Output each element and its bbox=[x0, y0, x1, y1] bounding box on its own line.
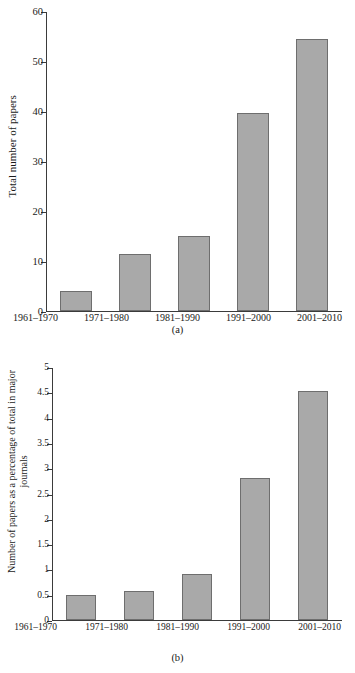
subplot-caption-b: (b) bbox=[0, 652, 355, 663]
plot-area-b: 00.511.522.533.544.55 bbox=[52, 368, 342, 621]
x-category-label: 1981–1990 bbox=[142, 623, 213, 633]
y-tick-label: 30 bbox=[33, 157, 44, 168]
bar-a-1981–1990[interactable] bbox=[178, 236, 210, 311]
y-tick-label: 50 bbox=[33, 57, 44, 68]
y-tick-label: 3 bbox=[44, 464, 49, 474]
bar-slot bbox=[110, 368, 168, 620]
figure-a: 0102030405060 1961–19701971–19801981–199… bbox=[0, 0, 355, 340]
x-category-label: 1991–2000 bbox=[213, 623, 284, 633]
bar-slot bbox=[226, 368, 284, 620]
y-tick-label: 20 bbox=[33, 207, 44, 218]
y-tick-label: 2 bbox=[44, 515, 49, 525]
bar-a-1961–1970[interactable] bbox=[60, 291, 92, 311]
bar-slot bbox=[168, 368, 226, 620]
bar-slot bbox=[46, 12, 105, 311]
x-category-label: 1991–2000 bbox=[213, 313, 284, 323]
bar-slot bbox=[105, 12, 164, 311]
y-tick-label: 2.5 bbox=[37, 490, 49, 500]
y-axis-title-b: Number of papers as a percentage of tota… bbox=[6, 369, 29, 574]
bar-series-a bbox=[46, 12, 342, 311]
bar-b-1961–1970[interactable] bbox=[66, 595, 96, 620]
bar-b-1991–2000[interactable] bbox=[240, 478, 270, 620]
y-tick-label: 60 bbox=[33, 7, 44, 18]
bar-slot bbox=[224, 12, 283, 311]
y-tick-label: 1.5 bbox=[37, 540, 49, 550]
y-tick-label: 4.5 bbox=[37, 389, 49, 399]
y-tick-label: 10 bbox=[33, 257, 44, 268]
y-tick-label: 0.5 bbox=[37, 591, 49, 601]
bar-a-2001–2010[interactable] bbox=[296, 39, 328, 311]
x-category-label: 1971–1980 bbox=[71, 623, 142, 633]
bar-b-2001–2010[interactable] bbox=[298, 391, 328, 620]
y-tick-label: 40 bbox=[33, 107, 44, 118]
x-axis-category-labels-a: 1961–19701971–19801981–19901991–20002001… bbox=[0, 313, 355, 323]
plot-area-a: 0102030405060 bbox=[46, 12, 342, 312]
bar-a-1991–2000[interactable] bbox=[237, 113, 269, 311]
bar-series-b bbox=[52, 368, 342, 620]
y-tick-label: 3.5 bbox=[37, 439, 49, 449]
y-tick-label: 5 bbox=[44, 363, 49, 373]
bar-slot bbox=[284, 368, 342, 620]
x-category-label: 2001–2010 bbox=[284, 623, 355, 633]
x-axis-line-b bbox=[52, 620, 342, 621]
bar-slot bbox=[164, 12, 223, 311]
y-axis-title-a: Total number of papers bbox=[6, 66, 19, 226]
y-tick-label: 4 bbox=[44, 414, 49, 424]
x-category-label: 1981–1990 bbox=[142, 313, 213, 323]
x-category-label: 1971–1980 bbox=[71, 313, 142, 323]
bar-slot bbox=[52, 368, 110, 620]
bar-b-1971–1980[interactable] bbox=[124, 591, 154, 620]
bar-b-1981–1990[interactable] bbox=[182, 574, 212, 620]
bar-a-1971–1980[interactable] bbox=[119, 254, 151, 311]
x-category-label: 1961–1970 bbox=[0, 623, 71, 633]
x-axis-category-labels-b: 1961–19701971–19801981–19901991–20002001… bbox=[0, 623, 355, 633]
x-category-label: 1961–1970 bbox=[0, 313, 71, 323]
subplot-caption-a: (a) bbox=[0, 324, 355, 335]
y-tick-label: 1 bbox=[44, 566, 49, 576]
figure-b: 00.511.522.533.544.55 1961–19701971–1980… bbox=[0, 340, 355, 673]
x-category-label: 2001–2010 bbox=[284, 313, 355, 323]
bar-slot bbox=[283, 12, 342, 311]
